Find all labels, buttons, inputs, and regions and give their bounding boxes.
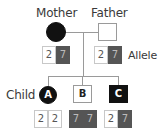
allele-box: 7 (118, 110, 132, 128)
child-a-symbol: A (39, 86, 57, 104)
mother-symbol (46, 22, 66, 42)
allele-box: 7 (56, 46, 70, 64)
allele-box: 2 (34, 110, 48, 128)
allele-box: 2 (94, 46, 108, 64)
allele-box: 7 (69, 110, 83, 128)
child-c-symbol: C (109, 85, 128, 103)
allele-box: 7 (108, 46, 122, 64)
child-b-drop (82, 76, 83, 85)
child-b-id: B (79, 89, 87, 99)
descent-line (83, 32, 84, 76)
allele-box: 2 (42, 46, 56, 64)
child-a-drop (48, 76, 49, 86)
mother-label: Mother (36, 7, 77, 19)
child-c-id: C (115, 89, 122, 99)
child-label: Child (6, 89, 35, 101)
marriage-line (64, 32, 99, 33)
child-c-drop (118, 76, 119, 85)
child-c-alleles: 2 7 (104, 110, 132, 128)
father-symbol (98, 23, 117, 41)
sibship-line (48, 76, 119, 77)
allele-box: 7 (83, 110, 97, 128)
child-a-alleles: 2 2 (34, 110, 62, 128)
allele-label: Allele (128, 50, 157, 61)
child-b-alleles: 7 7 (69, 110, 97, 128)
child-b-symbol: B (73, 85, 92, 103)
father-alleles: 2 7 (94, 46, 122, 64)
allele-box: 2 (48, 110, 62, 128)
allele-box: 2 (104, 110, 118, 128)
child-a-id: A (44, 90, 52, 100)
mother-alleles: 2 7 (42, 46, 70, 64)
father-label: Father (91, 7, 128, 19)
